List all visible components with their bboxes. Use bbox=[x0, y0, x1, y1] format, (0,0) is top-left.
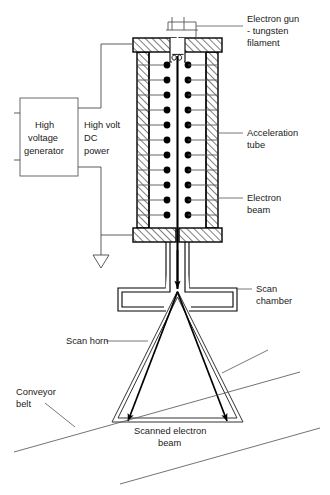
hv-wire-top bbox=[78, 44, 133, 108]
label-acceleration-tube-l2: tube bbox=[247, 140, 265, 150]
label-hv-generator-l2: voltage bbox=[28, 133, 58, 143]
label-hv-power-l1: High volt bbox=[84, 120, 121, 130]
bottom-flange-left bbox=[133, 228, 176, 242]
label-scanned-beam-l2: beam bbox=[158, 438, 182, 448]
label-scan-horn: Scan horn bbox=[66, 336, 108, 346]
scan-chamber-right-inner-wall bbox=[185, 242, 233, 307]
bottom-flange-right bbox=[179, 228, 222, 242]
label-electron-gun-l1: Electron gun bbox=[247, 14, 299, 24]
label-scanned-beam-l1: Scanned electron bbox=[134, 426, 206, 436]
conveyor-belt-upper-edge bbox=[14, 372, 300, 452]
label-acceleration-tube-l1: Acceleration bbox=[247, 128, 298, 138]
electron-beam-accelerator-diagram: Electron gun - tungsten filament Acceler… bbox=[0, 0, 330, 495]
label-conveyor-belt-l2: belt bbox=[16, 399, 31, 409]
hv-wire-bottom bbox=[78, 167, 133, 235]
diagram-canvas: Electron gun - tungsten filament Acceler… bbox=[0, 0, 330, 495]
leader-scan-horn-right bbox=[222, 350, 268, 373]
label-electron-beam-l1: Electron bbox=[247, 193, 281, 203]
label-leader-lines bbox=[45, 26, 268, 427]
conveyor-belt-lower-edge bbox=[120, 428, 320, 484]
label-scan-chamber-l1: Scan bbox=[256, 284, 277, 294]
high-voltage-wiring bbox=[78, 44, 133, 268]
label-hv-generator-l1: High bbox=[35, 120, 54, 130]
ground-icon bbox=[93, 255, 109, 268]
scan-chamber-left-inner-wall bbox=[122, 242, 170, 307]
label-hv-power-l3: power bbox=[84, 146, 109, 156]
label-scan-chamber-l2: chamber bbox=[256, 296, 292, 306]
leader-conveyor-belt bbox=[45, 403, 75, 427]
label-electron-beam-l2: beam bbox=[247, 205, 271, 215]
label-electron-gun-l2: - tungsten bbox=[247, 26, 288, 36]
label-electron-gun-l3: filament bbox=[247, 38, 280, 48]
label-hv-generator-l3: generator bbox=[24, 146, 64, 156]
label-conveyor-belt-l1: Conveyor bbox=[16, 387, 56, 397]
label-hv-power-l2: DC bbox=[84, 133, 98, 143]
